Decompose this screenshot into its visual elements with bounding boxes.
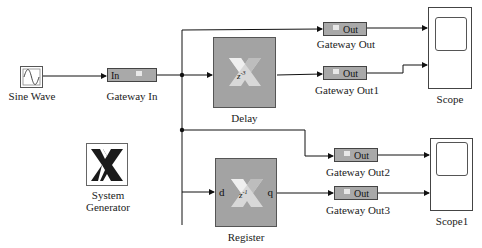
gateway-in-port-label: In: [111, 70, 119, 81]
gateway-out3-block[interactable]: Out: [334, 186, 378, 200]
scope-block[interactable]: [428, 7, 472, 89]
scope-screen-icon: [435, 17, 467, 51]
scope1-block[interactable]: [430, 138, 473, 211]
gateway-out2-block[interactable]: Out: [334, 148, 378, 162]
xilinx-mini-icon: [344, 189, 350, 194]
scope1-label: Scope1: [426, 215, 478, 227]
gateway-in-label: Gateway In: [100, 90, 164, 102]
gateway-out2-label: Gateway Out2: [323, 166, 393, 178]
register-d-port: d: [219, 186, 225, 198]
delay-block[interactable]: z-3: [213, 37, 276, 108]
gateway-out3-port-label: Out: [354, 188, 369, 199]
gateway-out2-port-label: Out: [354, 150, 369, 161]
sine-icon: [21, 67, 42, 87]
xilinx-mini-icon: [333, 69, 339, 74]
gateway-out1-label: Gateway Out1: [312, 84, 382, 96]
gateway-out-block[interactable]: Out: [323, 22, 367, 36]
xilinx-logo-icon: [88, 146, 126, 184]
delay-expr: z-3: [237, 70, 246, 81]
xilinx-mini-icon: [333, 25, 339, 30]
register-expr: z-1: [239, 189, 248, 200]
register-label: Register: [212, 231, 280, 243]
scope-screen-icon: [436, 142, 468, 176]
xilinx-mini-icon: [136, 71, 142, 76]
scope-label: Scope: [425, 93, 475, 105]
register-q-port: q: [268, 186, 274, 198]
system-generator-label: System Generator: [80, 189, 136, 213]
sine-wave-label: Sine Wave: [6, 90, 58, 102]
system-generator-block[interactable]: [86, 143, 128, 186]
gateway-out-label: Gateway Out: [312, 38, 380, 50]
sine-wave-block[interactable]: [20, 66, 43, 88]
gateway-out3-label: Gateway Out3: [323, 204, 393, 216]
xilinx-mini-icon: [344, 151, 350, 156]
gateway-out1-block[interactable]: Out: [323, 66, 367, 80]
gateway-in-block[interactable]: In: [107, 68, 157, 82]
delay-label: Delay: [213, 112, 276, 124]
gateway-out-port-label: Out: [343, 24, 358, 35]
gateway-out1-port-label: Out: [343, 68, 358, 79]
register-block[interactable]: d q z-1: [215, 158, 277, 227]
